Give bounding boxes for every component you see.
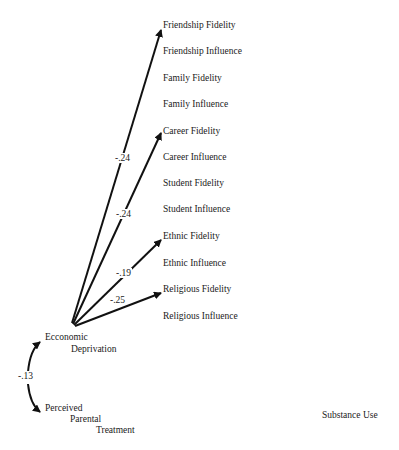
path-diagram-arrows — [0, 0, 399, 450]
coef-friendship-fidelity: -.24 — [114, 153, 131, 163]
correlation-arc-lower — [28, 384, 40, 412]
coef-religious-fidelity: -.25 — [109, 295, 126, 305]
arrow-friendship-fidelity — [72, 30, 161, 323]
correlation-arc — [28, 342, 40, 372]
coef-correlation: -.13 — [17, 371, 34, 381]
node-substance-use: Substance Use — [322, 410, 378, 420]
node-ethnic-influence: Ethnic Influence — [163, 258, 226, 268]
node-religious-fidelity: Religious Fidelity — [163, 284, 231, 294]
node-perceived-parental-treatment-line2: Parental — [70, 414, 101, 424]
coef-ethnic-fidelity: -.19 — [115, 268, 132, 278]
coef-career-fidelity: -.24 — [115, 209, 132, 219]
node-family-fidelity: Family Fidelity — [163, 73, 222, 83]
node-ethnic-fidelity: Ethnic Fidelity — [163, 231, 220, 241]
arrow-ethnic-fidelity — [74, 240, 161, 325]
node-perceived-parental-treatment-line3: Treatment — [96, 425, 135, 435]
node-student-influence: Student Influence — [163, 204, 230, 214]
node-friendship-influence: Friendship Influence — [163, 46, 242, 56]
node-career-fidelity: Career Fidelity — [163, 126, 220, 136]
node-perceived-parental-treatment-line1: Perceived — [45, 403, 82, 413]
node-economic-deprivation-line2: Deprivation — [71, 344, 116, 354]
node-career-influence: Career Influence — [163, 152, 227, 162]
node-friendship-fidelity: Friendship Fidelity — [163, 20, 236, 30]
node-student-fidelity: Student Fidelity — [163, 178, 224, 188]
node-religious-influence: Religious Influence — [163, 311, 238, 321]
node-economic-deprivation-line1: Ecconomic — [45, 332, 88, 342]
node-family-influence: Family Influence — [163, 99, 228, 109]
